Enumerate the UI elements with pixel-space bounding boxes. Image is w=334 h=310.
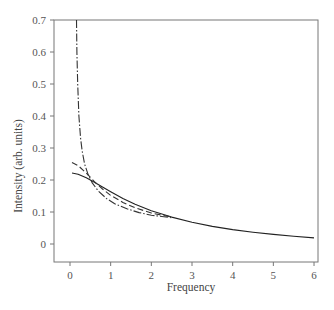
y-axis-label: Intensity (arb. units)	[12, 119, 25, 213]
y-axis: 00.10.20.30.40.50.60.7	[32, 14, 54, 250]
y-tick-label: 0	[41, 238, 47, 250]
y-tick-label: 0.3	[32, 142, 46, 154]
y-tick-label: 0.5	[32, 78, 46, 90]
series-solid	[72, 173, 314, 238]
x-tick-label: 1	[108, 269, 114, 281]
x-tick-label: 2	[149, 269, 155, 281]
y-tick-label: 0.6	[32, 46, 46, 58]
y-tick-label: 0.1	[32, 206, 46, 218]
x-tick-label: 6	[311, 269, 317, 281]
series-dash-dot	[77, 20, 172, 218]
x-axis-label: Frequency	[167, 281, 216, 294]
chart: 0123456 00.10.20.30.40.50.60.7 Frequency…	[0, 0, 334, 310]
x-tick-label: 3	[189, 269, 195, 281]
x-tick-label: 0	[67, 269, 73, 281]
plot-frame	[54, 20, 318, 262]
x-tick-label: 5	[271, 269, 277, 281]
y-tick-label: 0.4	[32, 110, 46, 122]
y-tick-label: 0.2	[32, 174, 46, 186]
y-tick-label: 0.7	[32, 14, 46, 26]
plot-series	[72, 20, 314, 238]
x-tick-label: 4	[230, 269, 236, 281]
x-axis: 0123456	[67, 262, 317, 281]
